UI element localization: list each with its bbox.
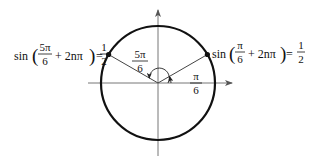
left-eq-func: sin (14, 49, 28, 63)
diagram-svg: 5π 6 π 6 sin ( 5π 6 + 2nπ ) = 1 2 sin ( … (0, 0, 312, 163)
angle-pi-6-num: π (193, 70, 199, 82)
right-eq-frac-num: π (237, 39, 243, 51)
angle-5pi-6-den: 6 (137, 62, 143, 74)
arc-5pi-6 (149, 68, 169, 83)
left-eq-rparen: ) (89, 45, 95, 67)
right-eq-lparen: ( (229, 43, 235, 65)
right-equation: sin ( π 6 + 2nπ ) = 1 2 (212, 39, 305, 65)
radius-pi-6 (158, 55, 207, 84)
left-equation: sin ( 5π 6 + 2nπ ) = 1 2 (14, 41, 108, 67)
angle-label-pi-6: π 6 (190, 70, 202, 96)
right-eq-term: + 2nπ (248, 47, 276, 61)
radius-5pi-6 (109, 55, 158, 84)
right-eq-func: sin (212, 47, 226, 61)
right-eq-rhs-num: 1 (298, 39, 304, 51)
right-eq-rhs-den: 2 (298, 53, 304, 65)
left-eq-term: + 2nπ (55, 49, 83, 63)
angle-label-5pi-6: 5π 6 (132, 48, 148, 74)
right-point (205, 52, 210, 57)
left-eq-frac-num: 5π (39, 41, 51, 53)
right-eq-equals: = (286, 47, 293, 61)
angle-pi-6-den: 6 (193, 84, 199, 96)
left-eq-frac-den: 6 (42, 55, 48, 67)
left-eq-lparen: ( (32, 45, 38, 67)
right-eq-frac-den: 6 (237, 53, 243, 65)
angle-5pi-6-num: 5π (134, 48, 146, 60)
left-eq-rhs-num: 1 (101, 41, 107, 53)
left-eq-rhs-den: 2 (101, 55, 107, 67)
unit-circle-diagram: 5π 6 π 6 sin ( 5π 6 + 2nπ ) = 1 2 sin ( … (0, 0, 312, 163)
left-point (106, 52, 111, 57)
